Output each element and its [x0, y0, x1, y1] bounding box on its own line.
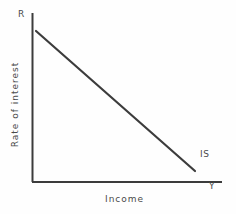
x-axis-title: Income	[105, 195, 144, 204]
plot-area	[0, 0, 236, 214]
y-axis-endpoint-label: R	[18, 10, 25, 19]
is-curve-label: IS	[200, 150, 210, 159]
x-axis-endpoint-label: Y	[209, 182, 215, 191]
y-axis-title-text: Rate of interest	[12, 61, 21, 147]
is-curve-line	[36, 31, 195, 171]
is-curve-figure: R Y IS Income Rate of interest	[0, 0, 236, 214]
y-axis-title: Rate of interest	[0, 56, 32, 152]
